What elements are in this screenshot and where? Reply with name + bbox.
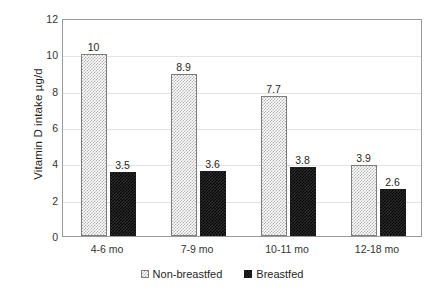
bar-non-breastfed [81, 54, 107, 236]
bar-breastfed [110, 172, 136, 236]
legend-label-non-breastfed: Non-breastfed [153, 268, 223, 280]
plot-area: 103.58.93.67.73.83.92.6 [62, 19, 422, 237]
y-tick-label: 12 [2, 13, 58, 25]
x-tick-label: 12-18 mo [355, 243, 399, 255]
x-tick-label: 4-6 mo [91, 243, 124, 255]
legend-swatch-breastfed-icon [244, 270, 252, 278]
legend-label-breastfed: Breastfed [256, 268, 303, 280]
gridline [63, 129, 421, 130]
gridline [63, 56, 421, 57]
y-tick-label: 6 [2, 122, 58, 134]
bar-value-label: 10 [75, 41, 113, 53]
gridline [63, 93, 421, 94]
y-tick-label: 10 [2, 49, 58, 61]
y-tick-label: 8 [2, 86, 58, 98]
vitamin-d-intake-bar-chart: Vitamin D intake µg/d 024681012 103.58.9… [0, 0, 444, 298]
bar-breastfed [380, 189, 406, 236]
bar-value-label: 7.7 [255, 83, 293, 95]
legend-swatch-non-breastfed-icon [141, 270, 149, 278]
bar-value-label: 3.6 [194, 158, 232, 170]
y-tick-label: 0 [2, 231, 58, 243]
y-axis-tick-labels: 024681012 [0, 0, 58, 298]
chart-legend: Non-breastfed Breastfed [0, 268, 444, 280]
bar-non-breastfed [261, 96, 287, 236]
x-tick-label: 10-11 mo [265, 243, 309, 255]
legend-entry-non-breastfed: Non-breastfed [141, 268, 223, 280]
legend-entry-breastfed: Breastfed [244, 268, 303, 280]
bar-value-label: 3.5 [104, 159, 142, 171]
x-tick-label: 7-9 mo [181, 243, 214, 255]
y-tick-label: 2 [2, 195, 58, 207]
bar-value-label: 8.9 [165, 61, 203, 73]
bar-value-label: 2.6 [374, 176, 412, 188]
bar-value-label: 3.8 [284, 154, 322, 166]
y-tick-label: 4 [2, 158, 58, 170]
x-axis-tick-labels: 4-6 mo7-9 mo10-11 mo12-18 mo [62, 243, 422, 259]
bar-breastfed [290, 167, 316, 236]
bar-non-breastfed [171, 74, 197, 236]
bar-breastfed [200, 171, 226, 236]
bar-value-label: 3.9 [345, 152, 383, 164]
